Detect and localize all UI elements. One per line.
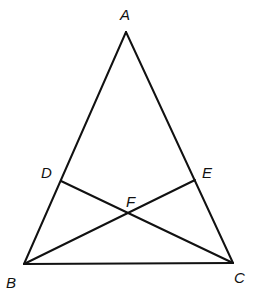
label-C: C bbox=[234, 269, 245, 286]
label-D: D bbox=[41, 164, 52, 181]
segment-BC bbox=[24, 263, 233, 264]
label-E: E bbox=[202, 164, 213, 181]
triangle-diagram: A B C D E F bbox=[0, 0, 262, 295]
label-B: B bbox=[6, 274, 16, 291]
segment-AC bbox=[126, 32, 233, 263]
segment-BE bbox=[24, 180, 195, 264]
label-F: F bbox=[126, 193, 136, 210]
segment-AB bbox=[24, 32, 126, 264]
segment-DC bbox=[61, 181, 233, 263]
label-A: A bbox=[119, 6, 130, 23]
